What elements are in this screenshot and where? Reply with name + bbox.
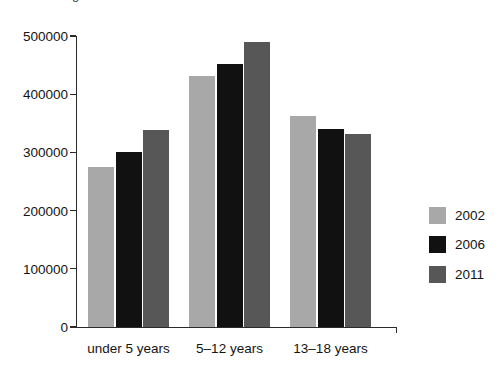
bar-chart: g 0100000200000300000400000500000 under … [0,0,504,377]
y-axis-tick [70,210,76,211]
y-axis-tick-label: 200000 [23,203,68,218]
y-axis-tick [70,326,76,327]
y-axis-tick [70,35,76,36]
x-axis-label-3: 13–18 years [293,341,367,356]
bar-2011-2 [244,42,270,327]
bar-2002-2 [189,76,215,327]
bar-2006-3 [318,129,344,327]
bar-2002-1 [88,167,114,327]
bar-2006-1 [116,152,142,327]
legend-label-2011: 2011 [455,267,484,282]
bar-2011-3 [345,134,371,327]
x-axis-line [76,327,397,328]
x-axis-label-2: 5–12 years [196,341,263,356]
legend-item-2002[interactable]: 2002 [429,206,485,224]
legend-swatch-2002 [429,207,446,224]
y-axis-tick [70,94,76,95]
legend-label-2002: 2002 [455,208,485,223]
y-axis-tick-label: 400000 [23,87,68,102]
bar-2006-2 [217,64,243,327]
bar-2011-1 [143,130,169,327]
x-axis-label-1: under 5 years [87,341,170,356]
legend-label-2006: 2006 [455,237,485,252]
x-axis-end-tick [396,327,397,333]
y-axis-tick-label: 100000 [23,261,68,276]
y-axis-tick [70,152,76,153]
plot-area: under 5 years5–12 years13–18 years [76,36,397,327]
bar-2002-3 [290,116,316,327]
clipped-caption-text: g [72,0,79,2]
y-axis-tick-label: 300000 [23,145,68,160]
y-axis-line [76,36,77,327]
y-axis-tick-label: 0 [60,320,68,335]
legend-swatch-2006 [429,236,446,253]
legend-swatch-2011 [429,266,446,283]
y-axis-tick-label: 500000 [23,29,68,44]
y-axis-tick [70,268,76,269]
legend-item-2011[interactable]: 2011 [429,265,484,283]
legend-item-2006[interactable]: 2006 [429,236,485,254]
